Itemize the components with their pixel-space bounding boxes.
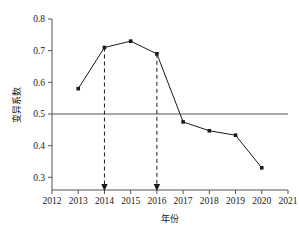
y-tick-label: 0.8 — [33, 14, 45, 24]
x-axis-title: 年份 — [161, 213, 179, 224]
data-point-marker — [155, 52, 159, 56]
data-point-marker — [103, 46, 107, 50]
y-tick-label: 0.5 — [33, 109, 45, 119]
x-tick-label: 2018 — [200, 196, 219, 206]
data-point-marker — [260, 166, 264, 170]
y-tick-label: 0.4 — [33, 141, 45, 151]
line-chart: 0.30.40.50.60.70.8 201220132014201520162… — [0, 0, 299, 237]
x-tick-label: 2015 — [121, 196, 140, 206]
annotation-arrows — [101, 48, 160, 192]
x-tick-label: 2020 — [252, 196, 271, 206]
y-tick-label: 0.3 — [33, 173, 45, 183]
x-tick-label: 2019 — [226, 196, 245, 206]
x-tick-label: 2016 — [147, 196, 166, 206]
x-tick-label: 2014 — [95, 196, 114, 206]
x-axis-ticks: 2012201320142015201620172018201920202021 — [43, 190, 298, 206]
y-tick-label: 0.6 — [33, 78, 45, 88]
x-tick-label: 2012 — [43, 196, 62, 206]
x-tick-label: 2013 — [69, 196, 88, 206]
data-point-marker — [234, 133, 238, 137]
y-axis-ticks: 0.30.40.50.60.70.8 — [33, 14, 52, 182]
axes — [52, 19, 288, 190]
data-point-marker — [76, 87, 80, 91]
series-line — [78, 41, 262, 168]
data-point-marker — [181, 120, 185, 124]
x-tick-label: 2017 — [174, 196, 193, 206]
x-tick-label: 2021 — [279, 196, 298, 206]
data-point-marker — [208, 129, 212, 133]
y-tick-label: 0.7 — [33, 46, 45, 56]
chart-figure: 0.30.40.50.60.70.8 201220132014201520162… — [0, 0, 299, 237]
y-axis-title: 变异系数 — [11, 87, 22, 123]
data-point-marker — [129, 39, 133, 43]
